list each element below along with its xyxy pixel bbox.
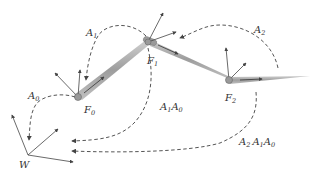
- link-1: [142, 36, 232, 80]
- transform-label-a0: A0: [27, 90, 39, 103]
- transform-label-a2a1a0: A2A1A0: [238, 136, 275, 149]
- frame-label-f1: F1: [146, 55, 158, 68]
- frame-world: W: [12, 115, 73, 170]
- transform-label-a1: A1: [85, 27, 97, 40]
- frame-label-w: W: [19, 159, 30, 170]
- frame-label-f2: F2: [224, 92, 236, 105]
- frame-label-f0: F0: [83, 104, 95, 117]
- transform-label-a2: A2: [253, 24, 265, 37]
- frame-f1: F1: [145, 13, 176, 68]
- link-2: [228, 76, 310, 84]
- link-0: [74, 40, 150, 100]
- transform-label-a1a0: A1A0: [159, 101, 183, 114]
- kinematic-chain-diagram: F0 F1 F2 W A1 A2 A0 A1A0 A2A1A0: [0, 0, 322, 175]
